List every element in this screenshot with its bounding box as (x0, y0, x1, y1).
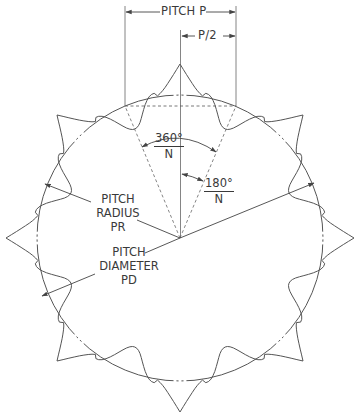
pitch-radius-line-1: PITCH (92, 192, 144, 206)
half-pitch-angle-arc (182, 174, 203, 181)
half-pitch-angle-label: 180° N (204, 177, 234, 206)
pitch-radius-line-2: RADIUS (92, 206, 144, 220)
half-pitch-label: P/2 (198, 30, 217, 42)
pitch-angle-denominator: N (154, 147, 184, 161)
pitch-diameter-label: PITCH DIAMETER PD (92, 245, 166, 287)
pitch-radius-label: PITCH RADIUS PR (92, 192, 144, 234)
sprocket-diagram (0, 0, 358, 417)
pitch-diameter-line-3: PD (92, 273, 166, 287)
half-pitch-angle-numerator: 180° (204, 177, 234, 192)
pitch-diameter-line-1: PITCH (92, 245, 166, 259)
pitch-label: PITCH P (161, 6, 206, 18)
half-pitch-angle-denominator: N (204, 192, 234, 206)
pitch-angle-numerator: 360° (154, 132, 184, 147)
pitch-angle-label: 360° N (154, 132, 184, 161)
pitch-diameter-line-2: DIAMETER (92, 259, 166, 273)
pitch-diameter-leader-left (42, 274, 95, 296)
pitch-radius-line-3: PR (92, 220, 144, 234)
pitch-radius-leader (45, 184, 91, 202)
